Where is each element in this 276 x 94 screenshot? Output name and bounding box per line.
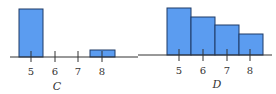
chart-canvas: 5 6 7 8 C 5 6 7 8 D bbox=[0, 0, 276, 94]
x-axis-label-c: C bbox=[53, 80, 62, 93]
tick-label-d-5: 5 bbox=[176, 65, 182, 76]
tick-label-d-6: 6 bbox=[200, 65, 206, 76]
tick-label-c-7: 7 bbox=[75, 66, 81, 77]
tick-label-d-8: 8 bbox=[247, 65, 253, 76]
tick-label-c-5: 5 bbox=[28, 66, 34, 77]
bar-d-5 bbox=[167, 8, 191, 55]
chart-d: 5 6 7 8 D bbox=[138, 8, 272, 91]
chart-c: 5 6 7 8 C bbox=[10, 9, 138, 93]
tick-label-c-8: 8 bbox=[99, 66, 105, 77]
tick-label-c-6: 6 bbox=[52, 66, 58, 77]
x-axis-label-d: D bbox=[212, 78, 222, 91]
tick-label-d-7: 7 bbox=[224, 65, 230, 76]
bar-d-8 bbox=[239, 34, 263, 55]
bar-c-5 bbox=[19, 9, 43, 57]
